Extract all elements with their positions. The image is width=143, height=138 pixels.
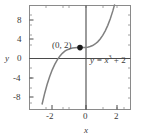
x-tick-label-neg2: -2 xyxy=(46,112,54,121)
equation-part-tail: + 2 xyxy=(112,55,126,65)
y-intercept-marker xyxy=(77,45,83,51)
y-tick-label-neg4: -4 xyxy=(13,74,21,83)
y-tick-label-0: 0 xyxy=(17,54,22,63)
cubic-function-figure: 8 4 0 -4 -8 y -2 0 2 x (0, 2) y = x3 + 2 xyxy=(0,0,143,138)
y-tick-label-8: 8 xyxy=(17,16,22,25)
x-tick-label-2: 2 xyxy=(114,112,119,121)
y-tick-label-4: 4 xyxy=(17,35,22,44)
point-annotation-label: (0, 2) xyxy=(52,41,72,50)
x-tick-label-0: 0 xyxy=(83,112,88,121)
y-tick-label-neg8: -8 xyxy=(13,93,21,102)
x-axis-label: x xyxy=(84,126,88,135)
equation-part-lhs: y = x xyxy=(90,55,109,65)
y-axis-label: y xyxy=(5,54,9,63)
bottom-major-ticks xyxy=(52,105,117,110)
equation-label: y = x3 + 2 xyxy=(90,56,126,65)
